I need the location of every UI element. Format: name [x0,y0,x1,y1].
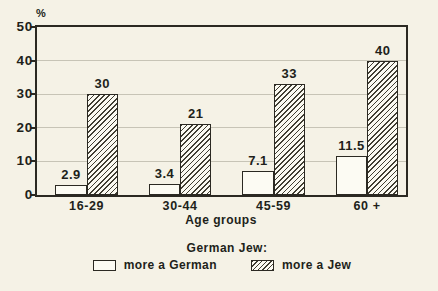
legend: more a German more a Jew [6,258,438,272]
bar-more-a-german-60 [336,156,367,195]
bar-more-a-german-45-59 [242,171,273,195]
bar-value-label-more-a-german-30-44: 3.4 [155,166,174,181]
x-axis-label-30-44: 30-44 [135,199,225,213]
y-axis-tick-label-20: 20 [4,121,33,135]
bar-value-label-more-a-jew-60: 40 [375,43,390,58]
legend-swatch-more-a-jew [251,260,274,271]
x-axis-label-60: 60 + [322,199,412,213]
bar-value-label-more-a-german-60: 11.5 [338,138,364,153]
x-axis-title: Age groups [4,213,438,227]
plot-area: 2.9303.4217.13311.540 [35,25,408,197]
bar-value-label-more-a-jew-45-59: 33 [282,66,297,81]
bar-more-a-jew-16-29 [87,94,118,195]
bar-more-a-german-30-44 [149,184,180,195]
y-axis-unit-label: % [36,7,46,19]
figure-root: 2.9303.4217.13311.540 % 01020304050 16-2… [0,0,438,291]
grid-line-40 [37,60,406,61]
bar-more-a-jew-45-59 [274,84,305,195]
bar-value-label-more-a-german-45-59: 7.1 [248,153,267,168]
legend-swatch-more-a-german [93,260,116,271]
y-axis-tick-label-30: 30 [4,87,33,101]
y-axis-tick-label-50: 50 [4,20,33,34]
x-axis-label-16-29: 16-29 [42,199,132,213]
bar-value-label-more-a-jew-16-29: 30 [95,76,110,91]
bar-more-a-jew-30-44 [180,124,211,195]
legend-title: German Jew: [16,241,438,255]
bar-more-a-jew-60 [367,61,398,195]
legend-label-more-a-german: more a German [124,258,217,272]
legend-label-more-a-jew: more a Jew [282,258,351,272]
bar-value-label-more-a-german-16-29: 2.9 [61,167,80,182]
x-axis-label-45-59: 45-59 [229,199,319,213]
y-axis-tick-label-10: 10 [4,154,33,168]
bar-more-a-german-16-29 [55,185,86,195]
bar-value-label-more-a-jew-30-44: 21 [188,106,203,121]
y-axis-tick-label-40: 40 [4,54,33,68]
y-axis-tick-label-0: 0 [4,188,33,202]
